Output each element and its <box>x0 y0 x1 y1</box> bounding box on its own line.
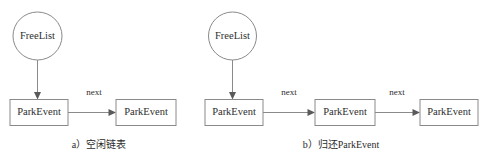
arrow-head-right-icon <box>109 109 117 116</box>
parkevent-label: ParkEvent <box>323 106 367 117</box>
panel-a-freelist-node: FreeList <box>13 12 62 60</box>
panel-a-parkevent-node-2: ParkEvent <box>116 100 176 126</box>
panel-a-edge-node1-to-node2: next <box>68 87 116 116</box>
panel-a-caption: a）空闲链表 <box>72 138 126 150</box>
panel-a: FreeList ParkEvent next ParkEvent <box>10 12 176 150</box>
edge-label-next: next <box>86 87 102 97</box>
arrow-head-down-icon <box>34 92 41 100</box>
freelist-label: FreeList <box>215 30 250 41</box>
arrow-head-right-icon <box>308 109 316 116</box>
edge-label-next: next <box>389 87 405 97</box>
panel-b-parkevent-node-2: ParkEvent <box>315 100 375 126</box>
parkevent-label: ParkEvent <box>124 106 168 117</box>
panel-b-edge-node2-to-node3: next <box>375 87 420 116</box>
panel-b-parkevent-node-3: ParkEvent <box>420 100 478 126</box>
panel-a-parkevent-node-1: ParkEvent <box>10 100 68 126</box>
panel-b-parkevent-node-1: ParkEvent <box>205 100 263 126</box>
panel-b: FreeList ParkEvent next ParkEvent <box>205 12 478 150</box>
parkevent-label: ParkEvent <box>17 106 61 117</box>
arrow-head-down-icon <box>229 92 236 100</box>
panel-b-freelist-node: FreeList <box>209 12 257 60</box>
panel-b-edge-node1-to-node2: next <box>263 87 315 116</box>
linked-list-diagram: FreeList ParkEvent next ParkEvent <box>0 0 486 166</box>
arrow-head-right-icon <box>413 109 421 116</box>
figure-container: FreeList ParkEvent next ParkEvent <box>0 0 486 166</box>
parkevent-label: ParkEvent <box>212 106 256 117</box>
freelist-label: FreeList <box>20 30 55 41</box>
edge-label-next: next <box>281 87 297 97</box>
panel-b-caption: b）归还ParkEvent <box>303 138 380 150</box>
parkevent-label: ParkEvent <box>427 106 471 117</box>
panel-b-edge-freelist-to-node1 <box>229 60 236 100</box>
panel-a-edge-freelist-to-node1 <box>34 60 41 100</box>
